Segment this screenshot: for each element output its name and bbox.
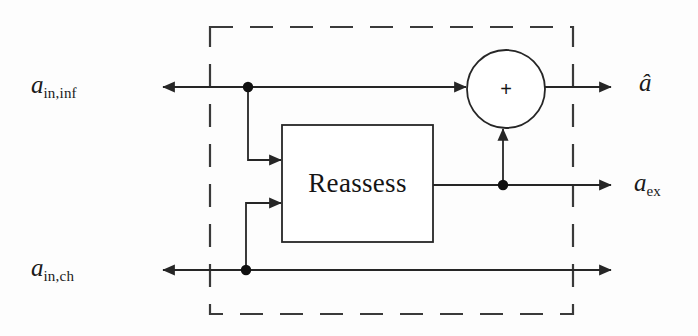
input-label-a-in-inf: ain,inf xyxy=(31,72,77,97)
junction-dot-in-inf xyxy=(243,82,253,92)
wire-in-ch-branch xyxy=(246,203,281,270)
block-diagram: Reassess + ain,inf ain,ch â aex xyxy=(0,0,698,336)
reassess-block-label: Reassess xyxy=(282,125,433,242)
input-label-a-in-inf-var: a xyxy=(31,71,44,98)
junction-dot-a-ex xyxy=(498,180,508,190)
input-label-a-in-ch: ain,ch xyxy=(31,255,74,280)
input-label-a-in-ch-sub: in,ch xyxy=(44,268,75,284)
output-label-a-ex-sub: ex xyxy=(647,183,662,199)
sum-node-plus-label: + xyxy=(467,50,545,128)
output-label-a-ex: aex xyxy=(634,170,661,195)
input-label-a-in-ch-var: a xyxy=(31,254,44,281)
input-label-a-in-inf-sub: in,inf xyxy=(44,85,77,101)
output-label-a-hat: â xyxy=(639,70,652,95)
junction-dot-in-ch xyxy=(241,265,251,275)
output-label-a-hat-var: â xyxy=(639,69,652,96)
output-label-a-ex-var: a xyxy=(634,169,647,196)
wire-in-inf-branch xyxy=(248,87,281,160)
